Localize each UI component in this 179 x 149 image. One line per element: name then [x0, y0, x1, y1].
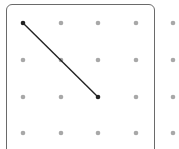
peg-dot[interactable] — [171, 58, 176, 63]
peg-dot[interactable] — [134, 21, 139, 26]
peg-dot[interactable] — [21, 95, 26, 100]
peg-dot[interactable] — [59, 131, 64, 136]
peg-dot[interactable] — [96, 58, 101, 63]
geoboard-grid[interactable] — [0, 0, 179, 149]
peg-dot[interactable] — [21, 131, 26, 136]
peg-dot[interactable] — [171, 21, 176, 26]
peg-dot[interactable] — [171, 131, 176, 136]
peg-dot[interactable] — [96, 131, 101, 136]
peg-dot[interactable] — [134, 95, 139, 100]
peg-dot[interactable] — [171, 95, 176, 100]
peg-dot[interactable] — [59, 95, 64, 100]
peg-dot[interactable] — [134, 131, 139, 136]
peg-dot[interactable] — [21, 58, 26, 63]
line-segment[interactable] — [23, 23, 98, 97]
peg-dot[interactable] — [59, 21, 64, 26]
peg-dot[interactable] — [134, 58, 139, 63]
peg-dot[interactable] — [96, 21, 101, 26]
